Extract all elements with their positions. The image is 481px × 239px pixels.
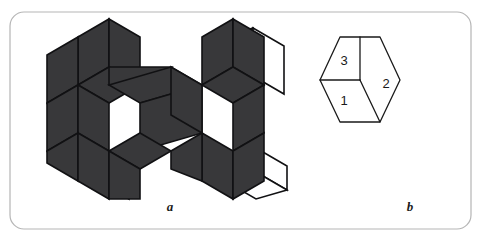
cube-face-3-label: 3	[340, 53, 347, 68]
cube-face-1-label: 1	[340, 93, 347, 108]
cube-face-2-label: 2	[382, 76, 389, 91]
figure-root: 321 a b	[0, 0, 481, 239]
panel-caption-a: a	[158, 200, 182, 214]
panel-caption-b: b	[398, 200, 422, 214]
